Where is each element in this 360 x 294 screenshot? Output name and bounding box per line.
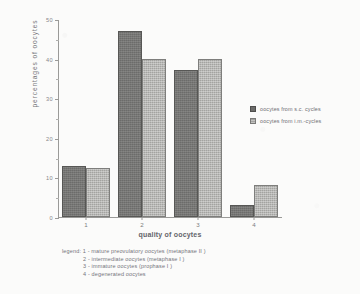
x-tick-mark (86, 217, 87, 220)
x-tick-mark (198, 217, 199, 220)
legend-swatch-icon-series-1 (250, 106, 256, 112)
x-tick-mark (142, 217, 143, 220)
legend-label-series-1: oocytes from s.c. cycles (260, 106, 321, 112)
bar-2-series-1 (118, 31, 142, 217)
bar-group-1: 1 (58, 20, 114, 217)
footnote-line-3: 3 - immature oocytes (prophase I ) (62, 263, 206, 271)
bar-3-series-1 (174, 70, 198, 217)
y-tick-label: 0 (49, 215, 53, 221)
bar-group-2: 2 (114, 20, 170, 217)
chart-legend: oocytes from s.c. cycles oocytes from i.… (250, 106, 321, 130)
x-tick-label-4: 4 (252, 221, 255, 228)
plot-area: 01020304050 1234 (58, 20, 282, 218)
legend-label-series-2: oocytes from i.m.-cycles (260, 118, 321, 124)
y-tick-label: 40 (46, 57, 53, 63)
y-axis-title: percentages of oocytes (31, 0, 38, 144)
y-tick-label: 50 (46, 17, 53, 23)
x-tick-label-1: 1 (84, 221, 87, 228)
x-axis-line (58, 217, 282, 218)
bar-1-series-2 (86, 168, 110, 218)
bar-groups: 1234 (58, 20, 282, 217)
bar-chart-figure: percentages of oocytes 01020304050 1234 … (0, 0, 360, 294)
chart-footnote: legend: 1 - mature preovulatory oocytes … (62, 248, 206, 278)
bar-4-series-1 (230, 205, 254, 217)
bar-4-series-2 (254, 185, 278, 217)
y-tick-label: 10 (46, 175, 53, 181)
footnote-line-4: 4 - degenerated oocytes (62, 271, 206, 279)
y-tick-mark (55, 218, 59, 219)
legend-swatch-icon-series-2 (250, 118, 256, 124)
y-tick-label: 20 (46, 136, 53, 142)
x-tick-mark (254, 217, 255, 220)
bar-1-series-1 (62, 166, 86, 217)
bar-3-series-2 (198, 59, 222, 217)
bar-2-series-2 (142, 59, 166, 217)
x-tick-label-3: 3 (196, 221, 199, 228)
x-tick-label-2: 2 (140, 221, 143, 228)
footnote-line-1: legend: 1 - mature preovulatory oocytes … (62, 248, 206, 256)
legend-item-series-2: oocytes from i.m.-cycles (250, 118, 321, 124)
y-tick-label: 30 (46, 96, 53, 102)
footnote-line-2: 2 - intermediate oocytes (metaphase I ) (62, 256, 206, 264)
x-axis-title: quality of oocytes (58, 231, 282, 238)
legend-item-series-1: oocytes from s.c. cycles (250, 106, 321, 112)
bar-group-3: 3 (170, 20, 226, 217)
